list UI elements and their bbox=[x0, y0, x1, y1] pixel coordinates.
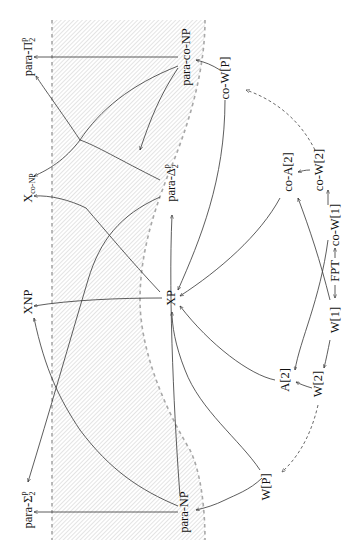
edge-w2-wp bbox=[282, 405, 318, 472]
edge-w1-coa2 bbox=[298, 198, 330, 300]
node-co-wp: co-W[P] bbox=[218, 56, 232, 99]
edge-cow1-a2 bbox=[295, 240, 328, 370]
node-co-w2: co-W[2] bbox=[312, 149, 326, 191]
edge-coa2-xp bbox=[180, 198, 280, 296]
node-para-np: para-NP bbox=[177, 491, 191, 533]
node-para-sigma2p: para-Σ2p bbox=[19, 492, 37, 529]
edge-a2-xp bbox=[180, 306, 275, 380]
node-wp: W[P] bbox=[259, 473, 273, 500]
edge-w2-a2 bbox=[296, 382, 312, 388]
node-a2: A[2] bbox=[278, 368, 292, 392]
node-xp: XP bbox=[164, 290, 178, 306]
node-fpt: FPT bbox=[328, 260, 342, 282]
node-co-a2: co-A[2] bbox=[281, 152, 295, 192]
node-para-pi2p: para-Π2p bbox=[19, 38, 37, 77]
node-xnp: XNP bbox=[21, 289, 35, 314]
edge-cow2-coa2 bbox=[298, 170, 310, 172]
node-w2: W[2] bbox=[311, 371, 325, 397]
node-co-w1: co-W[1] bbox=[328, 204, 342, 246]
edge-wp-paranp bbox=[196, 478, 262, 510]
edge-cow2-cowp bbox=[246, 90, 315, 150]
node-w1: W[1] bbox=[328, 307, 342, 333]
edge-w1-w2 bbox=[324, 340, 330, 368]
node-para-conp: para-co-NP bbox=[179, 28, 193, 86]
node-xconp: Xco-NP bbox=[21, 173, 37, 203]
complexity-class-diagram: para-Π2p Xco-NP XNP para-Σ2p para-co-NP … bbox=[0, 0, 361, 560]
node-para-delta2p: para-Δ2p bbox=[162, 164, 180, 202]
